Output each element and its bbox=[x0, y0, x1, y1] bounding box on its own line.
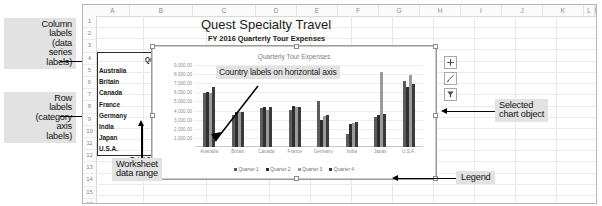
callout-worksheet-data-range: Worksheet data range bbox=[112, 158, 162, 181]
chart-legend[interactable]: Quarter 1 Quarter 2 Quarter 3 Quarter 4 bbox=[153, 167, 435, 172]
column-header-B[interactable]: B bbox=[130, 5, 193, 16]
bar[interactable] bbox=[355, 122, 358, 147]
callout-line: labels) bbox=[8, 132, 72, 141]
row-header-2[interactable]: 2 bbox=[83, 28, 96, 40]
bar[interactable] bbox=[326, 115, 329, 147]
row-header-15[interactable]: 15 bbox=[83, 187, 96, 199]
leader-line-worksheet-range bbox=[141, 126, 143, 158]
column-header-M[interactable]: M bbox=[595, 5, 596, 16]
column-header-D[interactable]: D bbox=[256, 5, 297, 16]
bar-group[interactable] bbox=[366, 65, 395, 147]
legend-label: Quarter 3 bbox=[302, 167, 322, 172]
chart-filters-button[interactable] bbox=[444, 88, 457, 101]
y-tick-label: 1,000.00 bbox=[174, 135, 192, 140]
row-header-4[interactable]: 4 bbox=[83, 53, 96, 65]
brush-icon bbox=[446, 74, 455, 83]
callout-row-labels: Row labels (category axis labels) bbox=[4, 92, 76, 143]
x-tick-label: Canada bbox=[252, 149, 281, 154]
x-tick-label: U.S.A. bbox=[395, 149, 424, 154]
column-header-A[interactable]: A bbox=[96, 5, 130, 16]
callout-line: Legend bbox=[461, 173, 490, 182]
column-header-K[interactable]: K bbox=[543, 5, 584, 16]
callout-line: Country labels on bbox=[219, 67, 282, 77]
callout-legend: Legend bbox=[456, 171, 495, 184]
bar-group[interactable] bbox=[338, 65, 367, 147]
x-tick-label: France bbox=[281, 149, 310, 154]
y-tick-label: 8,000.00 bbox=[174, 72, 192, 77]
legend-label: Quarter 2 bbox=[270, 167, 290, 172]
legend-swatch bbox=[234, 168, 237, 171]
y-tick-label: 6,000.00 bbox=[174, 90, 192, 95]
row-header-5[interactable]: 5 bbox=[83, 65, 96, 77]
leader-line-legend bbox=[398, 178, 456, 179]
page-subtitle: FY 2016 Quarterly Tour Expenses bbox=[208, 34, 325, 43]
row-header-3[interactable]: 3 bbox=[83, 40, 96, 52]
row-header-11[interactable]: 11 bbox=[83, 138, 96, 150]
column-header-E[interactable]: E bbox=[297, 5, 338, 16]
plus-icon bbox=[446, 58, 455, 67]
bar[interactable] bbox=[412, 84, 415, 147]
legend-label: Quarter 1 bbox=[238, 167, 258, 172]
column-header-F[interactable]: F bbox=[338, 5, 379, 16]
callout-line: chart object bbox=[499, 110, 544, 119]
legend-item: Quarter 3 bbox=[298, 167, 323, 172]
x-tick-label: Britain bbox=[224, 149, 253, 154]
callout-line: horizontal axis bbox=[285, 67, 337, 77]
row-header-7[interactable]: 7 bbox=[83, 89, 96, 101]
funnel-icon bbox=[446, 90, 455, 99]
legend-swatch bbox=[298, 168, 301, 171]
row-header-column: 123456789101112131415161718 bbox=[83, 16, 97, 203]
column-header-L[interactable]: L bbox=[584, 5, 595, 16]
y-tick-label: 7,000.00 bbox=[174, 81, 192, 86]
chart-elements-button[interactable] bbox=[444, 56, 457, 69]
bar[interactable] bbox=[383, 114, 386, 147]
bar[interactable] bbox=[298, 107, 301, 147]
legend-item: Quarter 2 bbox=[266, 167, 291, 172]
legend-swatch bbox=[266, 168, 269, 171]
row-header-1[interactable]: 1 bbox=[83, 16, 96, 28]
callout-line: data range bbox=[116, 169, 158, 178]
x-tick-label: Germany bbox=[309, 149, 338, 154]
x-tick-label: Australia bbox=[195, 149, 224, 154]
row-header-9[interactable]: 9 bbox=[83, 114, 96, 126]
leader-line-selected-chart bbox=[447, 111, 495, 112]
callout-country-labels: Country labels on horizontal axis bbox=[216, 66, 340, 79]
legend-swatch bbox=[329, 168, 332, 171]
column-header-H[interactable]: H bbox=[420, 5, 461, 16]
row-header-16[interactable]: 16 bbox=[83, 199, 96, 204]
callout-selected-chart-object: Selected chart object bbox=[495, 99, 548, 122]
page-title: Quest Specialty Travel bbox=[201, 17, 331, 32]
chart-side-buttons[interactable] bbox=[444, 56, 457, 104]
row-header-6[interactable]: 6 bbox=[83, 77, 96, 89]
y-tick-label: 3,000.00 bbox=[174, 117, 192, 122]
leader-arrow-legend bbox=[392, 175, 398, 181]
column-header-I[interactable]: I bbox=[461, 5, 502, 16]
bar-group[interactable] bbox=[395, 65, 424, 147]
row-header-8[interactable]: 8 bbox=[83, 101, 96, 113]
row-header-14[interactable]: 14 bbox=[83, 174, 96, 186]
leader-arrow-worksheet-range bbox=[138, 120, 144, 126]
x-tick-label: India bbox=[338, 149, 367, 154]
chart-styles-button[interactable] bbox=[444, 72, 457, 85]
y-tick-label: 2,000.00 bbox=[174, 126, 192, 131]
column-header-J[interactable]: J bbox=[502, 5, 543, 16]
y-tick-label: 5,000.00 bbox=[174, 99, 192, 104]
row-header-10[interactable]: 10 bbox=[83, 126, 96, 138]
row-header-12[interactable]: 12 bbox=[83, 150, 96, 162]
bar[interactable] bbox=[269, 107, 272, 147]
legend-item: Quarter 1 bbox=[234, 167, 259, 172]
column-header-G[interactable]: G bbox=[379, 5, 420, 16]
y-tick-label: 4,000.00 bbox=[174, 108, 192, 113]
legend-item: Quarter 4 bbox=[329, 167, 354, 172]
leader-arrow-selected-chart bbox=[441, 108, 447, 114]
y-tick-label: 9,000.00 bbox=[174, 63, 192, 68]
legend-label: Quarter 4 bbox=[334, 167, 354, 172]
leader-line-country-labels bbox=[206, 84, 266, 146]
chart-title: Quarterly Tour Expenses bbox=[153, 53, 435, 60]
x-tick-label: Japan bbox=[366, 149, 395, 154]
column-header-C[interactable]: C bbox=[193, 5, 256, 16]
row-header-13[interactable]: 13 bbox=[83, 162, 96, 174]
